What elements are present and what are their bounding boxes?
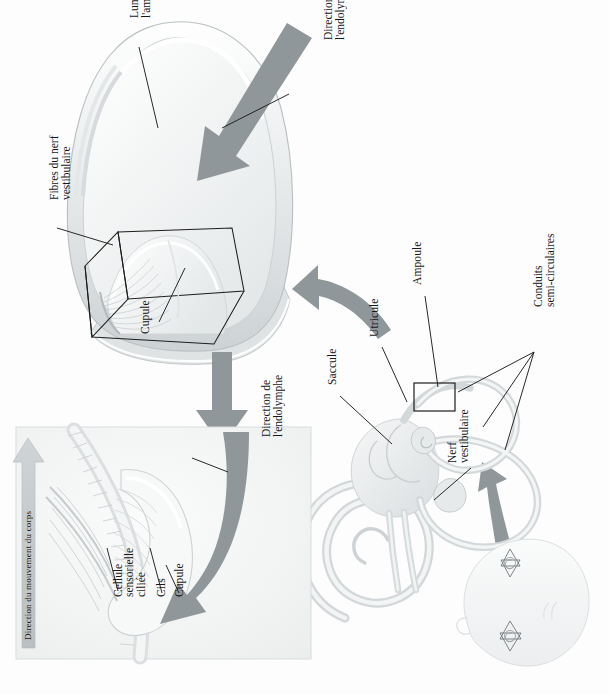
label-conduits-line2: semi-circulaires [545, 234, 557, 307]
label-cils: Cils [156, 578, 168, 597]
label-fibres-line2: vestibulaire [61, 135, 73, 200]
figure-canvas: l'ampoule Lumière de l'endolymphe Direct… [0, 0, 609, 695]
label-fibres-nerf-vestibulaire: vestibulaire Fibres du nerf [49, 135, 72, 200]
head-outline [464, 539, 589, 666]
label-lumiere-line2: l'ampoule [141, 0, 153, 18]
ampulla-swelling-2 [434, 479, 466, 512]
label-conduits-line1: Conduits [533, 234, 545, 307]
label-lumiere-ampoule: l'ampoule Lumière de [129, 0, 152, 18]
label-nerf-line2: vestibulaire [459, 409, 471, 463]
label-dir-endo-top-line2: l'endolymphe [335, 0, 347, 40]
label-direction-mouvement-corps: Direction du mouvement du corps [24, 511, 33, 640]
label-cupule-ampulla: Cupule [140, 300, 152, 334]
arrow-head-to-labyrinth [478, 462, 512, 553]
label-cellule-line3: ciliée [136, 548, 148, 597]
head-figure [457, 539, 589, 666]
vestibular-nerve [389, 512, 416, 590]
label-saccule: Saccule [327, 349, 339, 385]
label-cupule-inset: Cupule [174, 563, 186, 597]
label-dir-endo-inset-line1: Direction de [261, 375, 273, 437]
label-nerf-vestibulaire: vestibulaire Nerf [447, 409, 470, 463]
label-dir-endo-top-line1: Direction de [323, 0, 335, 40]
label-cellule-line2: sensorielle [124, 548, 136, 597]
label-nerf-line1: Nerf [447, 409, 459, 463]
diagram-artwork [0, 0, 609, 695]
label-direction-endolymphe-inset: l'endolymphe Direction de [261, 375, 284, 437]
label-cellule-sensorielle-ciliee: ciliée sensorielle Cellule [113, 548, 148, 597]
label-utricule: Utricule [369, 299, 381, 337]
ampulla-swelling [411, 427, 435, 453]
label-lumiere-line1: Lumière de [129, 0, 141, 18]
label-dir-endo-inset-line2: l'endolymphe [273, 375, 285, 437]
inset-panel [13, 427, 311, 659]
label-direction-endolymphe-top: l'endolymphe Direction de [323, 0, 346, 40]
label-conduits-semi-circulaires: semi-circulaires Conduits [533, 234, 556, 307]
label-fibres-line1: Fibres du nerf [49, 135, 61, 200]
label-cellule-line1: Cellule [113, 548, 125, 597]
label-ampoule: Ampoule [412, 242, 424, 286]
